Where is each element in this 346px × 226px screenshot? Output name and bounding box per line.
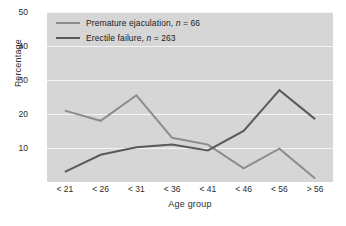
y-axis-title: Percentage — [11, 15, 25, 111]
x-tick-label: > 56 — [295, 184, 335, 194]
legend-item[interactable]: Erectile failure, n = 263 — [56, 32, 200, 43]
x-tick-label: < 41 — [188, 184, 228, 194]
series-line — [65, 90, 315, 172]
x-tick-label: < 46 — [224, 184, 264, 194]
series-line — [65, 95, 315, 178]
x-tick-label: < 36 — [152, 184, 192, 194]
y-tick-label: 30 — [8, 75, 28, 85]
legend-label: Premature ejaculation, n = 66 — [86, 18, 200, 28]
y-tick-label: 20 — [8, 109, 28, 119]
y-tick-label: 40 — [8, 41, 28, 51]
x-tick-label: < 21 — [45, 184, 85, 194]
chart-legend: Premature ejaculation, n = 66Erectile fa… — [56, 17, 200, 43]
legend-swatch — [56, 37, 80, 39]
legend-item[interactable]: Premature ejaculation, n = 66 — [56, 17, 200, 28]
x-axis-title: Age group — [47, 199, 333, 209]
x-tick-label: < 26 — [81, 184, 121, 194]
legend-label: Erectile failure, n = 263 — [86, 33, 176, 43]
chart-figure: Percentage Age group 1020304050 < 21< 26… — [0, 0, 346, 226]
x-tick-label: < 31 — [116, 184, 156, 194]
x-tick-label: < 56 — [259, 184, 299, 194]
legend-swatch — [56, 22, 80, 24]
y-tick-label: 10 — [8, 143, 28, 153]
y-tick-label: 50 — [8, 7, 28, 17]
